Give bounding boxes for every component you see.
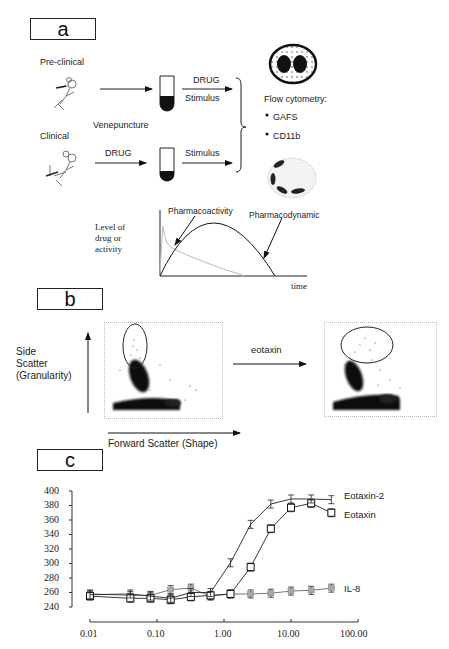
dose-response-chart: 400 380 360 340 320 300 280 260 240 0.01…	[0, 0, 449, 649]
chart-plot-area	[0, 0, 449, 649]
